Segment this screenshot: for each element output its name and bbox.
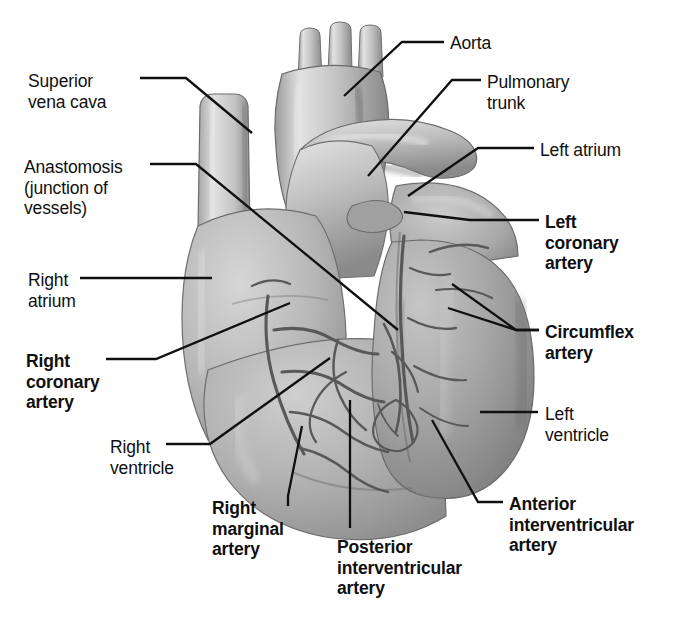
label-pulmonary-trunk: Pulmonary trunk: [487, 72, 569, 113]
label-anastomosis: Anastomosis (junction of vessels): [24, 157, 123, 219]
label-aorta: Aorta: [450, 33, 491, 54]
heart-anatomy-figure: Superior vena cava Anastomosis (junction…: [0, 0, 675, 623]
label-right-atrium: Right atrium: [28, 270, 76, 311]
label-right-marginal-artery: Right marginal artery: [212, 498, 284, 560]
label-left-coronary-artery: Left coronary artery: [545, 212, 619, 274]
label-right-ventricle: Right ventricle: [110, 437, 174, 478]
label-superior-vena-cava: Superior vena cava: [28, 71, 106, 112]
label-left-ventricle: Left ventricle: [545, 404, 609, 445]
label-circumflex-artery: Circumflex artery: [545, 322, 634, 363]
label-right-coronary-artery: Right coronary artery: [26, 351, 100, 413]
label-left-atrium: Left atrium: [540, 140, 621, 161]
label-anterior-interventricular-artery: Anterior interventricular artery: [509, 494, 634, 556]
label-posterior-interventricular-artery: Posterior interventricular artery: [337, 537, 462, 599]
